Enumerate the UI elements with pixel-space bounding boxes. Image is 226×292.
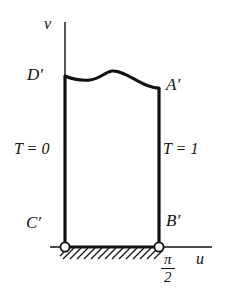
label-b-prime: B′ [166, 212, 180, 229]
label-c-prime: C′ [26, 214, 41, 231]
node-b-prime [154, 242, 163, 251]
u-axis-label: u [196, 251, 204, 267]
ground-hatching [60, 248, 163, 259]
v-axis-label: v [44, 16, 51, 32]
fraction-denominator: 2 [161, 269, 175, 285]
uv-plane-diagram: v u D′ A′ C′ B′ T = 0 T = 1 π 2 [0, 0, 226, 292]
left-boundary-condition: T = 0 [14, 141, 49, 157]
right-boundary-condition: T = 1 [163, 141, 198, 157]
top-boundary-curve [65, 71, 159, 88]
label-a-prime: A′ [166, 76, 180, 93]
fraction-numerator: π [161, 252, 175, 269]
pi-over-two-tick-label: π 2 [161, 252, 175, 285]
node-c-prime [60, 242, 69, 251]
label-d-prime: D′ [27, 66, 43, 83]
